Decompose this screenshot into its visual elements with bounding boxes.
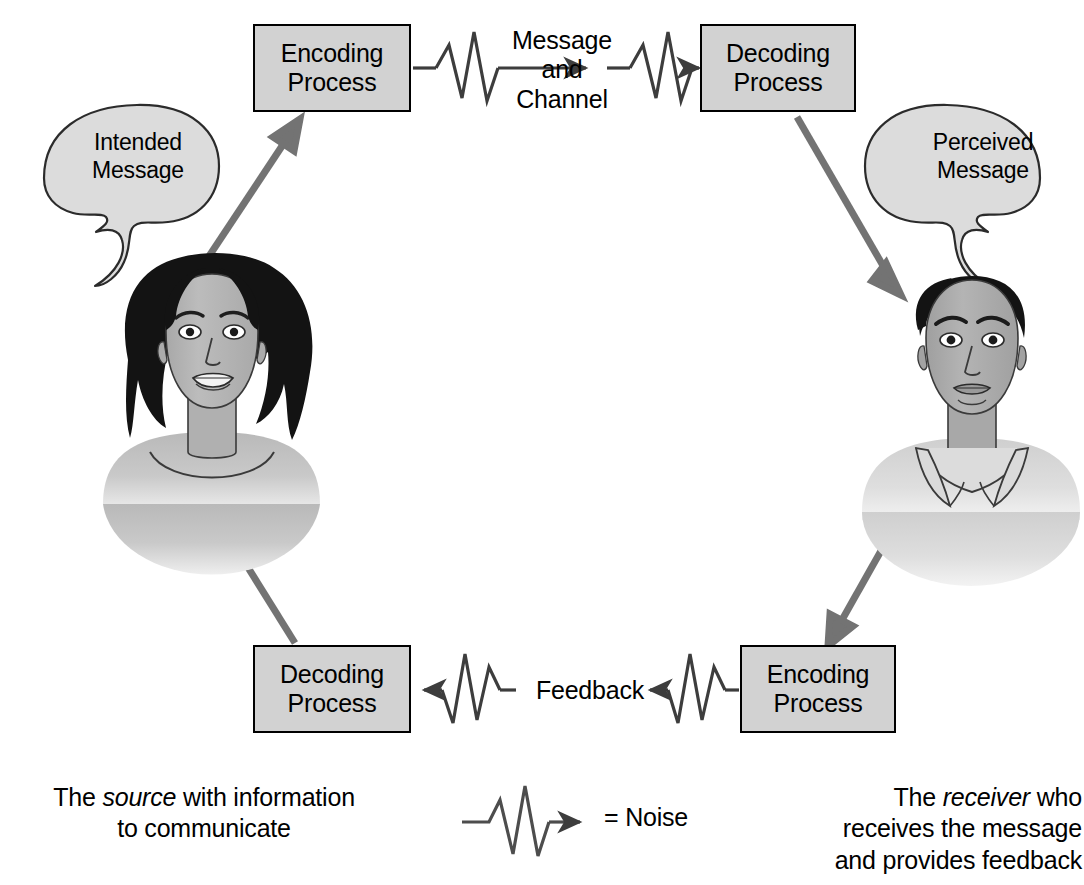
box-label-line2: Process <box>288 689 377 718</box>
figure-receiver-person <box>862 276 1080 586</box>
legend-noise-symbol <box>462 786 580 856</box>
caption-source-emphasis: source <box>102 783 176 811</box>
caption-source: The source with information to communica… <box>4 782 404 845</box>
box-label-line2: Process <box>288 68 377 97</box>
box-decoding-top[interactable]: Decoding Process <box>700 24 856 112</box>
label-feedback: Feedback <box>520 676 660 705</box>
caption-receiver-prefix: The <box>893 783 942 811</box>
box-label-line1: Decoding <box>726 39 830 68</box>
bubble-label-intended-message: Intended Message <box>58 128 218 184</box>
noise-zigzag-bottom-left <box>442 654 500 723</box>
bubble-line-2: Message <box>58 156 218 184</box>
caption-source-prefix: The <box>53 783 102 811</box>
figure-source-person <box>103 253 320 575</box>
box-label-line1: Encoding <box>767 660 870 689</box>
box-label-line1: Decoding <box>280 660 384 689</box>
caption-source-line-2: to communicate <box>4 813 404 844</box>
caption-source-line-1: The source with information <box>4 782 404 813</box>
caption-receiver-line-2: receives the message <box>690 813 1082 844</box>
label-message-and-channel: Message and Channel <box>477 26 647 114</box>
box-encoding-top[interactable]: Encoding Process <box>253 24 411 112</box>
box-decoding-bottom[interactable]: Decoding Process <box>253 645 411 733</box>
message-line-2: and <box>477 55 647 84</box>
box-label-line1: Encoding <box>281 39 384 68</box>
box-encoding-bottom[interactable]: Encoding Process <box>740 645 896 733</box>
noise-zigzag-bottom-right <box>668 654 725 723</box>
caption-receiver: The receiver who receives the message an… <box>690 782 1082 876</box>
caption-receiver-suffix: who <box>1030 783 1082 811</box>
caption-receiver-line-3: and provides feedback <box>690 845 1082 876</box>
bubble-line-1: Perceived <box>898 128 1068 156</box>
message-line-3: Channel <box>477 85 647 114</box>
bubble-line-2: Message <box>898 156 1068 184</box>
box-label-line2: Process <box>734 68 823 97</box>
caption-receiver-line-1: The receiver who <box>690 782 1082 813</box>
caption-source-suffix: with information <box>176 783 355 811</box>
bubble-label-perceived-message: Perceived Message <box>898 128 1068 184</box>
box-label-line2: Process <box>774 689 863 718</box>
diagram-canvas: Encoding Process Decoding Process Decodi… <box>0 0 1084 885</box>
message-line-1: Message <box>477 26 647 55</box>
bubble-line-1: Intended <box>58 128 218 156</box>
caption-receiver-emphasis: receiver <box>943 783 1030 811</box>
